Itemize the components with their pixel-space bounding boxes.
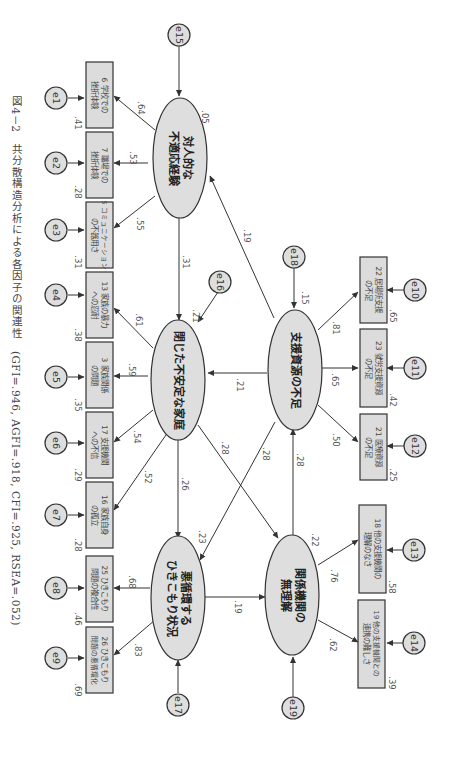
latent-label-hikikomori-1: 悪循環する	[179, 571, 193, 626]
error-e15: e15	[174, 26, 185, 44]
path-resources-to-interpersonal	[210, 176, 274, 318]
path-family-item13	[114, 308, 153, 348]
svg-text:.28: .28	[261, 447, 271, 461]
error-e4: e4	[51, 289, 62, 301]
svg-text:.35: .35	[73, 398, 83, 412]
path-interpersonal-item5	[114, 196, 155, 228]
path-interpersonal-item6	[114, 96, 155, 130]
svg-text:23 就労支援資源: 23 就労支援資源	[374, 341, 384, 396]
svg-text:3 家族関係: 3 家族関係	[100, 357, 110, 393]
svg-text:.58: .58	[387, 580, 397, 594]
svg-text:16 家族自身: 16 家族自身	[100, 495, 110, 536]
error-e18: e18	[289, 248, 300, 266]
svg-text:.46: .46	[73, 612, 83, 626]
svg-text:7 職場での: 7 職場での	[100, 147, 110, 182]
latent-label-hikikomori-2: ひきこもり状況	[165, 560, 179, 637]
loading-item22: .81	[331, 321, 341, 335]
error-e13: e13	[409, 541, 420, 559]
svg-text:への不信: への不信	[90, 431, 100, 460]
svg-text:.15: .15	[300, 291, 310, 305]
svg-text:.25: .25	[388, 468, 398, 482]
error-e8: e8	[51, 582, 62, 594]
svg-text:.19: .19	[233, 600, 243, 614]
svg-text:17 支援機関: 17 支援機関	[100, 425, 110, 465]
svg-text:.28: .28	[73, 538, 83, 552]
error-e5: e5	[51, 371, 62, 383]
svg-text:の問題: の問題	[90, 365, 99, 387]
loading-item26: .83	[133, 643, 143, 657]
svg-text:.26: .26	[180, 477, 190, 491]
svg-text:の不足: の不足	[364, 437, 373, 459]
svg-text:6 学校での: 6 学校での	[100, 77, 110, 112]
loading-item19: .62	[328, 638, 338, 652]
latent-label-interpersonal-1: 対人的な	[181, 135, 195, 180]
latent-label-agencies-2: 無理解	[279, 579, 293, 612]
svg-text:.28: .28	[295, 453, 305, 467]
svg-text:挫折体験: 挫折体験	[90, 81, 100, 110]
path-agencies-item18	[318, 540, 358, 565]
error-e1: e1	[51, 92, 62, 104]
path-family-to-agencies	[198, 425, 278, 538]
svg-text:.38: .38	[73, 328, 83, 342]
svg-text:.29: .29	[73, 468, 83, 482]
svg-text:の不足: の不足	[364, 280, 373, 302]
svg-text:の不足: の不足	[364, 358, 373, 380]
svg-text:.31: .31	[181, 255, 191, 269]
svg-text:.21: .21	[235, 378, 245, 392]
svg-text:.21: .21	[191, 309, 201, 323]
svg-text:.28: .28	[220, 441, 230, 455]
svg-text:.05: .05	[200, 110, 210, 124]
path-resources-to-hikikomori	[200, 422, 275, 560]
loading-item6: .64	[136, 101, 146, 115]
svg-text:.28: .28	[73, 185, 83, 199]
svg-text:22 居場所支援: 22 居場所支援	[374, 267, 384, 315]
svg-text:26 ひきこもり: 26 ひきこもり	[100, 637, 109, 684]
loading-item25: .68	[127, 575, 137, 589]
svg-text:の孤立: の孤立	[90, 505, 100, 527]
sem-diagram: e1 e2 e3 e4 e5 e6 e7 e8 e9 e10 e11 e12 e…	[0, 0, 454, 769]
svg-text:.65: .65	[388, 309, 398, 323]
svg-text:.23: .23	[197, 530, 207, 544]
loading-item3: .59	[127, 363, 137, 377]
svg-text:.22: .22	[310, 533, 320, 547]
svg-text:18 他の支援機関の: 18 他の支援機関の	[373, 519, 383, 580]
error-e3: e3	[51, 224, 62, 236]
svg-text:挫折体験: 挫折体験	[90, 151, 100, 180]
svg-text:問題の悪循環化: 問題の悪循環化	[90, 636, 99, 685]
error-e11: e11	[410, 359, 421, 377]
svg-text:21 医療資源: 21 医療資源	[374, 427, 384, 468]
error-e19: e19	[288, 699, 299, 717]
svg-text:理解のなさ: 理解のなさ	[363, 532, 373, 567]
loading-item17: .54	[132, 430, 142, 444]
loading-item23: .65	[330, 373, 340, 387]
loading-item7: .53	[128, 151, 138, 165]
svg-text:5 コミュニケーション: 5 コミュニケーション	[100, 200, 108, 269]
error-e17: e17	[173, 696, 184, 714]
loading-item21: .50	[331, 433, 341, 447]
latent-label-resources: 支援資源の不足	[289, 331, 303, 410]
svg-text:.42: .42	[388, 393, 398, 407]
svg-text:問題の複合性: 問題の複合性	[90, 568, 100, 611]
error-e2: e2	[51, 157, 62, 169]
svg-text:の不器用さ: の不器用さ	[90, 218, 99, 253]
svg-text:.41: .41	[73, 116, 83, 130]
loading-item18: .76	[329, 569, 339, 583]
error-e7: e7	[51, 509, 62, 521]
svg-text:.19: .19	[242, 229, 252, 243]
error-e6: e6	[51, 437, 62, 449]
svg-text:25 ひきこもり: 25 ひきこもり	[100, 566, 109, 613]
loading-item5: .55	[135, 217, 145, 231]
svg-text:19 他の支援機関との: 19 他の支援機関との	[372, 611, 381, 678]
latent-label-interpersonal-2: 不適応経験	[167, 131, 181, 187]
error-e12: e12	[410, 437, 421, 455]
error-e10: e10	[410, 281, 421, 299]
error-e16: e16	[215, 273, 226, 291]
error-e9: e9	[51, 652, 62, 664]
svg-text:.69: .69	[73, 683, 83, 697]
latent-label-agencies-1: 関係機関の	[293, 568, 307, 623]
loading-item13: .61	[134, 313, 144, 327]
error-e14: e14	[409, 634, 420, 652]
svg-text:.39: .39	[387, 676, 397, 690]
latent-label-family: 閉じた不安定な家庭	[172, 331, 186, 430]
loading-item16: .52	[143, 470, 153, 484]
